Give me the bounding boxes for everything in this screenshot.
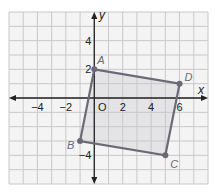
vertex-label-a: A bbox=[96, 54, 104, 66]
vertex-point-c bbox=[162, 152, 168, 158]
coordinate-plane: ADCB −4−224642−4 x y O bbox=[0, 0, 215, 192]
y-tick-label: 2 bbox=[85, 63, 91, 75]
y-axis-label: y bbox=[98, 8, 106, 22]
vertex-label-c: C bbox=[170, 158, 178, 170]
y-tick-label: 4 bbox=[85, 35, 91, 47]
y-tick-label: −4 bbox=[79, 149, 92, 161]
x-axis-label: x bbox=[197, 83, 205, 97]
x-tick-label: 4 bbox=[148, 101, 154, 113]
x-tick-label: 2 bbox=[120, 101, 126, 113]
x-tick-label: 6 bbox=[177, 101, 183, 113]
vertex-point-a bbox=[91, 66, 97, 72]
vertex-point-d bbox=[177, 81, 183, 87]
vertex-label-d: D bbox=[185, 71, 193, 83]
vertex-point-b bbox=[77, 138, 83, 144]
vertex-label-b: B bbox=[67, 139, 74, 151]
x-tick-label: −4 bbox=[31, 101, 44, 113]
origin-label: O bbox=[98, 101, 107, 113]
x-tick-label: −2 bbox=[60, 101, 73, 113]
